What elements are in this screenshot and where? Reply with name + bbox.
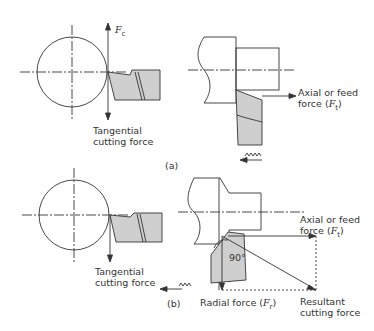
angle-label: 90° xyxy=(229,252,246,263)
axial-label-b: Axial or feedforce (Ft) xyxy=(300,214,360,241)
caption-b: (b) xyxy=(167,298,180,309)
axial-label-a: Axial or feedforce (Ft) xyxy=(298,87,358,114)
tangential-label-a: Tangentialcutting force xyxy=(93,125,153,147)
tool-side-a xyxy=(236,90,262,145)
fc-label: Fc xyxy=(115,24,125,40)
tool-b xyxy=(110,213,162,242)
tangential-label-b: Tangentialcutting force xyxy=(95,266,155,288)
tool-a xyxy=(108,70,160,100)
cutting-forces-diagram xyxy=(0,0,374,331)
caption-a: (a) xyxy=(165,160,178,171)
radial-label: Radial force (Fr) xyxy=(200,297,276,313)
resultant-label: Resultantcutting force xyxy=(300,296,360,318)
